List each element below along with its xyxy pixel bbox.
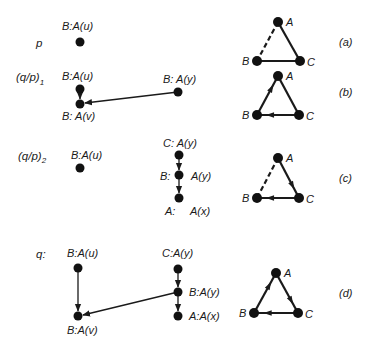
row-label-q: q: — [36, 248, 46, 260]
node-label-bau: B:A(u) — [67, 247, 99, 259]
vertex-A — [271, 268, 281, 278]
vertex-B — [252, 193, 262, 203]
vertex-label-A: A — [283, 267, 291, 279]
panel-label-d: (d) — [339, 287, 353, 299]
vertex-B — [252, 110, 262, 120]
vertex-C — [294, 193, 304, 203]
vertex-label-B: B — [242, 55, 249, 67]
vertex-label-A: A — [285, 152, 293, 164]
node-bau — [76, 164, 85, 173]
triangle-edge-B-A — [254, 273, 276, 313]
node-bay — [174, 88, 183, 97]
node-bau — [76, 38, 85, 47]
vertex-label-B: B — [239, 307, 246, 319]
vertex-label-A: A — [285, 70, 293, 82]
vertex-B — [249, 308, 259, 318]
node-label-bay: B: A(y) — [163, 73, 197, 85]
vertex-label-B: B — [242, 192, 249, 204]
node-bau — [74, 264, 83, 273]
vertex-label-C: C — [305, 308, 313, 320]
vertex-C — [295, 56, 305, 66]
panel-label-c: (c) — [339, 172, 352, 184]
row-label-qp1: (q/p)1 — [16, 71, 44, 87]
node-label-bav: B:A(v) — [67, 324, 98, 336]
panel-label-a: (a) — [339, 36, 353, 48]
vertex-C — [294, 110, 304, 120]
node-cay — [174, 265, 183, 274]
node-label-bay: B:A(y) — [189, 286, 220, 298]
arrowhead-B-A — [265, 282, 271, 290]
triangle-q: ABC — [239, 267, 313, 320]
arrowhead-A-C — [287, 296, 293, 304]
node-label-cay: C: A(y) — [163, 137, 197, 149]
vertex-B — [252, 56, 262, 66]
diagram-canvas: p B:A(u) (q/p)1 B:A(u) B: A(v) B: A(y) (… — [0, 0, 379, 352]
arrowhead-C-B — [264, 310, 272, 315]
vertex-label-C: C — [306, 110, 314, 122]
row-q: q: B:A(u) B:A(v) C:A(y) B:A(y) A:A(x) — [36, 247, 220, 336]
triangle-p: ABC — [242, 16, 315, 68]
vertex-A — [273, 71, 283, 81]
triangle-edge-A-C — [276, 273, 298, 313]
row-label-qp2: (q/p)2 — [18, 150, 47, 165]
vertex-A — [273, 153, 283, 163]
triangle-qp2: ABC — [242, 152, 314, 205]
node-label-bau: B:A(u) — [62, 70, 94, 82]
edge-by-v — [83, 292, 178, 315]
panel-label-b: (b) — [339, 86, 353, 98]
triangle-edge-A-B — [257, 158, 278, 198]
node-cay — [175, 151, 184, 160]
vertex-A — [273, 17, 283, 27]
vertex-C — [293, 308, 303, 318]
row-p: p B:A(u) — [35, 20, 94, 49]
vertex-label-A: A — [285, 16, 293, 28]
triangles: ABCABCABCABC — [239, 16, 315, 320]
arrowhead-A-C — [288, 181, 294, 189]
triangle-qp1: ABC — [242, 70, 314, 122]
node-label-by-right: A(y) — [190, 170, 212, 182]
arrowhead-C-B — [266, 195, 274, 200]
node-bay — [174, 288, 183, 297]
arrowhead-B-A — [267, 85, 273, 93]
node-bay — [175, 171, 184, 180]
arrowhead-C-B — [266, 112, 274, 117]
node-bav — [74, 312, 83, 321]
node-label-cay: C:A(y) — [162, 247, 194, 259]
node-bau — [76, 85, 85, 94]
row-label-p: p — [35, 37, 43, 49]
node-aax — [174, 312, 183, 321]
node-label-ax-right: A(x) — [189, 205, 211, 217]
edge-y-v — [85, 92, 178, 103]
node-label-ax-left: A: — [164, 205, 175, 217]
node-label-bau: B:A(u) — [62, 20, 94, 32]
node-label-bau: B:A(u) — [71, 149, 103, 161]
row-qp1: (q/p)1 B:A(u) B: A(v) B: A(y) — [16, 70, 197, 122]
node-bav — [76, 100, 85, 109]
node-label-aax: A:A(x) — [188, 310, 220, 322]
triangle-edge-B-A — [257, 76, 278, 115]
row-qp2: (q/p)2 B:A(u) C: A(y) B: A(y) A: A(x) — [18, 137, 212, 217]
node-aax — [175, 194, 184, 203]
vertex-label-C: C — [306, 193, 314, 205]
node-label-by-left: B: — [160, 170, 170, 182]
triangle-edge-A-B — [257, 22, 278, 61]
node-label-bav: B: A(v) — [62, 110, 96, 122]
triangle-edge-A-C — [278, 158, 299, 198]
vertex-label-C: C — [307, 56, 315, 68]
vertex-label-B: B — [242, 109, 249, 121]
